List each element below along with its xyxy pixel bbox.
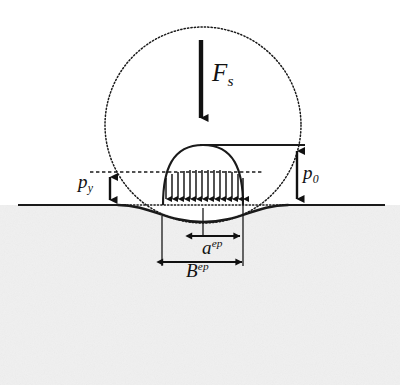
- soil-texture: [0, 205, 400, 385]
- pressure-ordinate-ticks: [166, 170, 243, 199]
- yield-pressure-label-sub: y: [88, 182, 93, 195]
- plastic-radius-label: aep: [202, 238, 222, 257]
- peak-pressure-label-base: p: [303, 162, 313, 183]
- contact-width-label-base: B: [186, 260, 198, 281]
- contact-width-label: Bep: [186, 261, 208, 280]
- soil-half-space: [0, 205, 400, 385]
- force-label: Fs: [212, 60, 233, 85]
- peak-pressure-label-sub: 0: [313, 173, 319, 186]
- contact-width-label-sup: ep: [198, 260, 209, 272]
- pressure-distribution-curve: [163, 145, 243, 205]
- peak-pressure-label: p0: [303, 163, 318, 182]
- yield-pressure-label: py: [78, 172, 93, 191]
- force-label-sub: s: [228, 72, 234, 89]
- force-label-base: F: [212, 59, 227, 86]
- plastic-radius-label-sup: ep: [212, 237, 223, 249]
- plastic-radius-label-base: a: [202, 237, 212, 258]
- yield-pressure-label-base: p: [78, 171, 88, 192]
- figure-root: Fs py p0 aep Bep: [0, 0, 400, 385]
- soil-sphere-contact-diagram: [0, 0, 400, 385]
